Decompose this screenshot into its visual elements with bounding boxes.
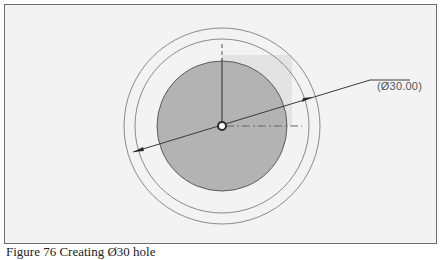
- dimension-arrow-left-icon: [133, 147, 144, 152]
- diameter-dimension-label[interactable]: (Ø30.00): [377, 80, 422, 92]
- center-point-icon[interactable]: [218, 122, 226, 130]
- figure-caption: Figure 76 Creating Ø30 hole: [6, 244, 155, 260]
